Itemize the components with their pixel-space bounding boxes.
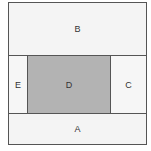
region-d-label: D xyxy=(66,80,73,90)
diagram-frame: B E D C A xyxy=(8,2,147,145)
region-c-label: C xyxy=(125,80,132,90)
region-c: C xyxy=(111,56,146,113)
region-b-label: B xyxy=(74,24,80,34)
region-e-label: E xyxy=(15,80,21,90)
region-d: D xyxy=(27,56,111,113)
region-a: A xyxy=(9,113,146,144)
region-a-label: A xyxy=(74,124,80,134)
region-b: B xyxy=(9,3,146,56)
region-e: E xyxy=(9,56,27,113)
